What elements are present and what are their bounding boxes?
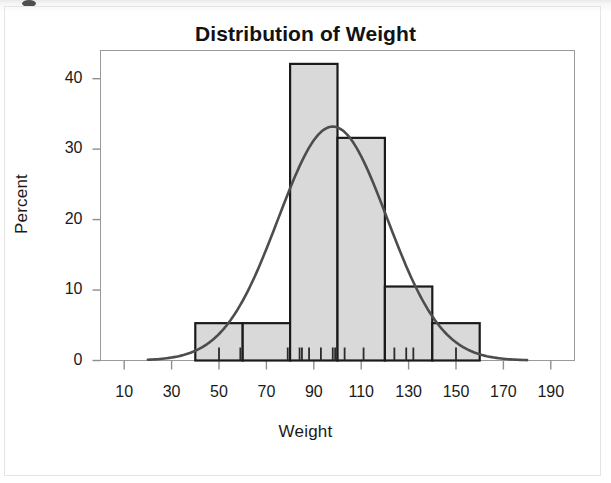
y-tick-label: 40 [47,69,83,87]
y-axis-title: Percent [12,144,32,264]
histogram-plot [0,0,611,483]
figure-page: Distribution of Weight 010203040 1030507… [0,0,611,483]
y-tick-label: 0 [47,351,83,369]
y-tick-label: 30 [47,139,83,157]
x-tick-label: 130 [387,383,431,401]
histogram-bars [195,64,479,361]
x-axis-title: Weight [0,422,611,442]
y-axis-ticks [93,79,101,361]
x-tick-label: 30 [150,383,194,401]
x-tick-label: 70 [244,383,288,401]
x-tick-label: 110 [339,383,383,401]
histogram-bar [385,287,432,361]
histogram-bar [243,323,290,360]
x-axis-ticks [124,361,551,370]
histogram-bar [338,138,385,361]
x-tick-label: 50 [197,383,241,401]
x-tick-label: 90 [292,383,336,401]
x-tick-label: 150 [434,383,478,401]
x-tick-label: 170 [481,383,525,401]
y-tick-label: 20 [47,210,83,228]
histogram-bar [290,64,337,361]
x-tick-label: 190 [529,383,573,401]
y-tick-label: 10 [47,280,83,298]
x-tick-label: 10 [102,383,146,401]
